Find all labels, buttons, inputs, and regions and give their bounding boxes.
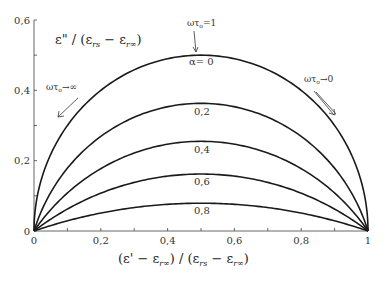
x-axis-title: (ε' − εr∞) / (εrs − εr∞) — [118, 251, 249, 268]
y-tick-label: 0,6 — [14, 15, 30, 26]
series-label-alpha-0-6: 0,6 — [194, 176, 210, 187]
annotation-text: ωτo=1 — [187, 18, 216, 29]
y-axis-title: ε" / (εrs − εr∞) — [55, 32, 142, 49]
x-tick-label: 1 — [365, 235, 371, 246]
x-tick-label: 0,6 — [226, 235, 242, 246]
y-tick-label: 0 — [24, 226, 30, 237]
annotation-wt-equals-1: ωτo=1 — [187, 18, 216, 52]
arrow-icon — [193, 31, 198, 52]
annotation-wt-to-zero: ωτo→0 — [304, 74, 336, 115]
x-tick-label: 0,8 — [293, 235, 309, 246]
annotation-text: ωτo→∞ — [46, 82, 77, 93]
y-tick-label: 0,4 — [14, 85, 30, 96]
series-label-alpha-0: α= 0 — [189, 56, 214, 67]
y-tick-label: 0,2 — [14, 155, 30, 166]
axes: 00,20,40,60,81 00,20,40,6 — [14, 15, 371, 247]
x-tick-label: 0,4 — [160, 235, 176, 246]
annotation-text: ωτo→0 — [304, 74, 333, 85]
series-label-alpha-0-4: 0,4 — [194, 144, 210, 155]
annotation-wt-to-infinity: ωτo→∞ — [46, 82, 78, 117]
arrow-icon — [314, 91, 336, 115]
series-label-alpha-0-8: 0,8 — [194, 205, 210, 216]
cole-cole-chart: 00,20,40,60,81 00,20,40,6 α= 0 0,2 0,4 0… — [0, 0, 387, 283]
series-label-alpha-0-2: 0,2 — [194, 106, 210, 117]
arrow-icon — [58, 98, 78, 117]
x-tick-label: 0,2 — [93, 235, 109, 246]
series-labels: α= 0 0,2 0,4 0,6 0,8 — [189, 56, 214, 216]
x-tick-label: 0 — [31, 235, 37, 246]
